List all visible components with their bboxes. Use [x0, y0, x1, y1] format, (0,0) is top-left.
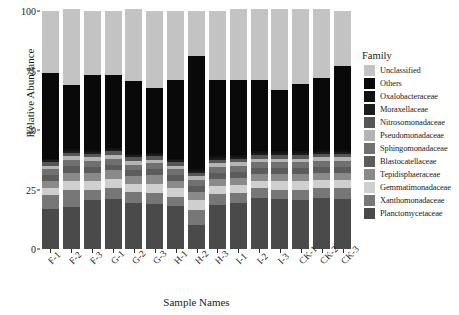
bar-segment: [313, 153, 330, 157]
bar-ck-2[interactable]: [313, 11, 330, 249]
legend-item[interactable]: Nitrosomonadaceae: [361, 116, 459, 129]
bar-segment: [63, 159, 80, 165]
legend-item[interactable]: Tepidisphaeraceae: [361, 168, 459, 181]
bar-segment: [313, 167, 330, 173]
bar-segment: [313, 197, 330, 249]
x-axis-tick-label: I-2: [255, 251, 270, 266]
bar-segment: [146, 193, 163, 204]
bar-segment: [146, 11, 163, 89]
legend-item[interactable]: Gemmatimonadaceae: [361, 181, 459, 194]
legend-item[interactable]: Others: [361, 77, 459, 90]
bar-segment: [271, 9, 288, 90]
bar-segment: [63, 9, 80, 84]
bar-segment: [271, 168, 288, 174]
bar-segment: [209, 163, 226, 167]
x-axis-tick-label: H-1: [172, 249, 190, 267]
bar-f-3[interactable]: [84, 11, 101, 249]
legend-item[interactable]: Oxalobacteraceae: [361, 90, 459, 103]
y-axis-tick-label: 50: [2, 125, 36, 136]
bar-segment: [84, 161, 101, 167]
bar-segment: [230, 9, 247, 80]
bar-g-1[interactable]: [105, 11, 122, 249]
bar-segment: [292, 189, 309, 200]
bar-segment: [188, 192, 205, 201]
x-axis-tick-label: F-3: [88, 250, 104, 266]
bar-segment: [313, 157, 330, 161]
bar-i-2[interactable]: [251, 11, 268, 249]
legend-item[interactable]: Moraxellaceae: [361, 103, 459, 116]
y-axis-tick-label: 25: [2, 184, 36, 195]
bar-f-2[interactable]: [63, 11, 80, 249]
bar-segment: [188, 176, 205, 180]
bar-segment: [292, 174, 309, 182]
bar-segment: [146, 175, 163, 184]
bar-segment: [125, 170, 142, 176]
legend-item-label: Pseudomonadaceae: [380, 131, 444, 140]
x-axis-tick-label: F-2: [67, 250, 83, 266]
y-axis-tick-label: 0: [2, 244, 36, 255]
bar-f-1[interactable]: [42, 11, 59, 249]
bar-segment: [188, 172, 205, 176]
bar-segment: [84, 11, 101, 76]
bar-segment: [84, 189, 101, 200]
bar-ck-3[interactable]: [334, 11, 351, 249]
legend-item[interactable]: Sphingomonadaceae: [361, 142, 459, 155]
bar-segment: [209, 167, 226, 173]
legend-color-swatch: [364, 117, 375, 128]
bar-segment: [42, 175, 59, 181]
bar-segment: [42, 195, 59, 208]
bar-g-2[interactable]: [125, 11, 142, 249]
legend-item-label: Unclassified: [380, 66, 421, 75]
legend-item[interactable]: Pseudomonadaceae: [361, 129, 459, 142]
bar-segment: [271, 89, 288, 151]
bar-segment: [125, 164, 142, 170]
legend-item-label: Planctomycetaceae: [380, 209, 442, 218]
bar-i-3[interactable]: [271, 11, 288, 249]
bar-g-3[interactable]: [146, 11, 163, 249]
x-axis-title: Sample Names: [40, 296, 353, 308]
bar-segment: [251, 162, 268, 168]
legend-item[interactable]: Blastocatellaceae: [361, 155, 459, 168]
bar-segment: [125, 157, 142, 161]
legend-item-label: Nitrosomonadaceae: [380, 118, 445, 127]
legend-item-label: Blastocatellaceae: [380, 157, 436, 166]
legend-item[interactable]: Xanthomonadaceae: [361, 194, 459, 207]
legend-item-label: Xanthomonadaceae: [380, 196, 444, 205]
bar-segment: [251, 174, 268, 182]
bar-segment: [42, 188, 59, 196]
bar-segment: [230, 165, 247, 171]
legend-item[interactable]: Planctomycetaceae: [361, 207, 459, 220]
bar-segment: [105, 11, 122, 76]
bar-segment: [334, 188, 351, 199]
bar-i-1[interactable]: [230, 11, 247, 249]
bar-segment: [334, 199, 351, 249]
bar-h-2[interactable]: [188, 11, 205, 249]
bar-h-3[interactable]: [209, 11, 226, 249]
legend-color-swatch: [364, 130, 375, 141]
bar-segment: [84, 153, 101, 157]
bar-segment: [84, 157, 101, 161]
bar-ck-1[interactable]: [292, 11, 309, 249]
bar-segment: [188, 200, 205, 210]
legend-item-label: Sphingomonadaceae: [380, 144, 448, 153]
bar-segment: [146, 88, 163, 153]
bar-segment: [271, 158, 288, 162]
bar-segment: [230, 80, 247, 155]
bar-segment: [251, 181, 268, 189]
bar-segment: [188, 186, 205, 192]
bar-segment: [292, 168, 309, 174]
bar-h-1[interactable]: [167, 11, 184, 249]
bar-segment: [167, 181, 184, 189]
bar-segment: [292, 83, 309, 151]
bar-segment: [209, 194, 226, 205]
bar-segment: [230, 162, 247, 166]
x-axis-tick-label: G-1: [109, 249, 127, 267]
bar-segment: [271, 199, 288, 249]
bar-segment: [167, 169, 184, 175]
bar-segment: [84, 200, 101, 249]
bar-segment: [334, 180, 351, 189]
bar-segment: [271, 174, 288, 182]
bar-segment: [42, 208, 59, 249]
bar-segment: [146, 156, 163, 160]
legend-item[interactable]: Unclassified: [361, 64, 459, 77]
